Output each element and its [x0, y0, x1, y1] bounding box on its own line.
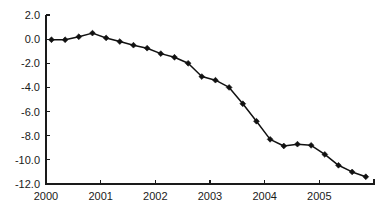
data-point-marker: [103, 35, 109, 41]
x-tick-label: 2001: [88, 190, 112, 202]
y-tick-label: 0.0: [25, 33, 40, 45]
data-point-marker: [363, 174, 369, 180]
y-tick-label: -4.0: [21, 81, 40, 93]
data-point-marker: [295, 141, 301, 147]
x-axis-tick-labels: 200020012002200320042005: [34, 190, 332, 202]
data-point-marker: [62, 37, 68, 43]
y-tick-label: -2.0: [21, 57, 40, 69]
x-tick-label: 2004: [252, 190, 276, 202]
series-line: [51, 33, 365, 177]
data-point-marker: [213, 77, 219, 83]
x-axis-tick-marks: [46, 180, 319, 184]
line-chart: 2.00.0-2.0-4.0-6.0-8.0-10.0-12.0 2000200…: [0, 0, 382, 213]
data-point-marker: [172, 54, 178, 60]
data-point-marker: [131, 42, 137, 48]
axis-frame: [46, 15, 374, 184]
y-tick-label: -12.0: [15, 178, 40, 190]
data-point-marker: [117, 39, 123, 45]
x-tick-label: 2003: [198, 190, 222, 202]
data-point-marker: [49, 37, 55, 43]
chart-container: 2.00.0-2.0-4.0-6.0-8.0-10.0-12.0 2000200…: [0, 0, 382, 213]
data-point-marker: [281, 143, 287, 149]
x-tick-label: 2000: [34, 190, 58, 202]
y-tick-label: -10.0: [15, 154, 40, 166]
y-tick-label: -6.0: [21, 106, 40, 118]
y-tick-label: -8.0: [21, 130, 40, 142]
y-axis-tick-labels: 2.00.0-2.0-4.0-6.0-8.0-10.0-12.0: [15, 9, 40, 190]
y-tick-label: 2.0: [25, 9, 40, 21]
data-point-marker: [90, 30, 96, 36]
series-markers: [49, 30, 369, 179]
x-tick-label: 2005: [307, 190, 331, 202]
data-point-marker: [76, 34, 82, 40]
data-point-marker: [158, 51, 164, 57]
x-tick-label: 2002: [143, 190, 167, 202]
data-point-marker: [144, 45, 150, 51]
data-point-marker: [349, 169, 355, 175]
